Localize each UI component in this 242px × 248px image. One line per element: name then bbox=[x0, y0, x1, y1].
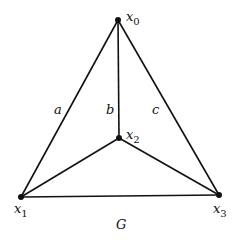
edge-a bbox=[21, 20, 118, 197]
vertices bbox=[18, 17, 222, 200]
vertex-x0 bbox=[115, 17, 121, 23]
vertex-x2 bbox=[116, 135, 122, 141]
edge-label-c: c bbox=[152, 102, 160, 117]
edge-x1-x3 bbox=[21, 195, 219, 197]
label-x0: x0 bbox=[126, 9, 140, 27]
edge-label-a: a bbox=[54, 102, 62, 117]
edge-label-b: b bbox=[106, 102, 114, 117]
vertex-x3 bbox=[216, 192, 222, 198]
edge-c bbox=[118, 20, 219, 195]
edge-b bbox=[118, 20, 119, 138]
edge-x2-x3 bbox=[119, 138, 219, 195]
edge-x1-x2 bbox=[21, 138, 119, 197]
graph-caption: G bbox=[116, 217, 126, 232]
graph-diagram: x0 x2 x1 x3 a b c G bbox=[0, 0, 242, 248]
label-x1: x1 bbox=[14, 201, 28, 219]
edges bbox=[21, 20, 219, 197]
vertex-x1 bbox=[18, 194, 24, 200]
label-x3: x3 bbox=[213, 201, 227, 219]
